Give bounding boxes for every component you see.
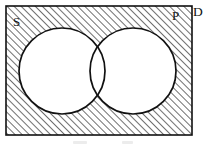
label-universal-set-d: D	[193, 4, 203, 19]
scan-artifact-left	[73, 141, 87, 144]
scan-artifact-right	[122, 141, 133, 144]
venn-diagram-canvas: S P D	[0, 0, 203, 145]
label-set-p: P	[172, 8, 179, 23]
shaded-region-hatch	[6, 6, 192, 135]
venn-diagram-figure: S P D	[0, 0, 203, 145]
label-set-s: S	[13, 14, 20, 29]
